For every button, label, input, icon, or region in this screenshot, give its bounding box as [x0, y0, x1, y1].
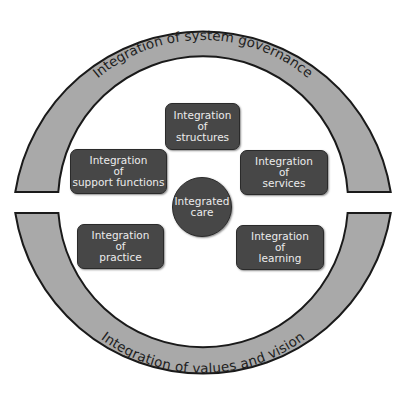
node-services: Integration of services — [240, 150, 328, 195]
node-learning: Integration of learning — [236, 225, 324, 270]
node-label-line3: practice — [99, 252, 141, 263]
center-integrated-care: Integrated care — [172, 177, 232, 237]
node-practice: Integration of practice — [77, 224, 164, 269]
center-label-line2: care — [191, 207, 214, 218]
node-label-line3: services — [262, 178, 305, 189]
node-label-line3: learning — [259, 253, 302, 264]
values-vision-arc — [15, 213, 390, 374]
node-label-line3: structures — [176, 132, 229, 143]
node-structures: Integration of structures — [165, 103, 240, 150]
node-support-functions: Integration of support functions — [70, 149, 167, 194]
node-label-line3: support functions — [72, 177, 164, 188]
